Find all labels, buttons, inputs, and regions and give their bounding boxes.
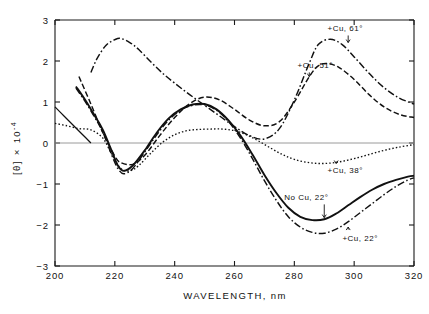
annotation-label: +Cu, 51° [298, 61, 333, 70]
annotation-label: +Cu, 61° [327, 24, 362, 33]
y-tick-labels: −3−2−10123 [36, 15, 49, 272]
curve-rising-short-left [55, 107, 91, 143]
curve-no-cu-22 [76, 86, 414, 220]
y-axis-title: [θ]×10-4 [10, 121, 22, 175]
annotation-label: +Cu, 22° [342, 234, 377, 243]
curve-annotations: +Cu, 61°+Cu, 51°+Cu, 38°No Cu, 22°+Cu, 2… [284, 24, 378, 242]
y-tick-label: 0 [43, 138, 49, 149]
x-tick-label: 300 [345, 270, 364, 281]
x-axis-title: WAVELENGTH, nm [183, 290, 287, 301]
x-tick-label: 260 [225, 270, 244, 281]
x-tick-label: 240 [165, 270, 184, 281]
y-tick-label: −1 [36, 179, 49, 190]
x-tick-labels: 200220240260280300320 [46, 270, 424, 281]
curve-cu-22 [76, 88, 414, 233]
y-tick-label: 3 [43, 15, 49, 26]
curve-cu-51 [79, 63, 414, 164]
annotation-label: +Cu, 38° [327, 166, 362, 175]
chart-canvas: +Cu, 61°+Cu, 51°+Cu, 38°No Cu, 22°+Cu, 2… [0, 0, 429, 314]
cd-spectrum-figure: +Cu, 61°+Cu, 51°+Cu, 38°No Cu, 22°+Cu, 2… [0, 0, 429, 314]
curve-cu-61 [91, 38, 414, 139]
x-tick-label: 280 [285, 270, 304, 281]
y-tick-label: −3 [36, 261, 49, 272]
annotation-label: No Cu, 22° [284, 193, 328, 202]
x-tick-label: 200 [46, 270, 65, 281]
x-tick-label: 320 [405, 270, 424, 281]
y-tick-label: −2 [36, 220, 49, 231]
y-tick-label: 2 [43, 56, 49, 67]
y-axis-title-text: [θ]×10-4 [10, 121, 22, 175]
y-tick-label: 1 [43, 97, 49, 108]
x-tick-label: 220 [106, 270, 125, 281]
data-curves [55, 38, 414, 233]
